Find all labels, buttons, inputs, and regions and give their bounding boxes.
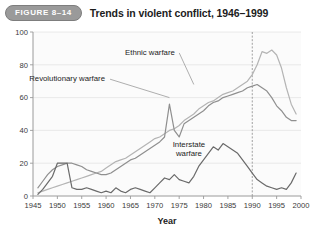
y-axis-tick-labels: 020406080100 <box>15 28 28 201</box>
figure-number-badge: FIGURE 8–14 <box>5 5 82 21</box>
y-tick-label: 0 <box>24 192 28 201</box>
series-annotation: Revolutionary warfare <box>29 74 105 83</box>
x-tick-label: 1980 <box>195 201 212 210</box>
x-tick-label: 2000 <box>293 201 310 210</box>
x-tick-label: 1975 <box>171 201 188 210</box>
x-tick-label: 1965 <box>122 201 139 210</box>
figure-container: FIGURE 8–14 Trends in violent conflict, … <box>0 0 320 229</box>
y-tick-label: 60 <box>20 93 28 102</box>
x-tick-label: 1995 <box>268 201 285 210</box>
y-tick-label: 100 <box>15 28 28 37</box>
y-tick-label: 80 <box>20 61 28 70</box>
x-tick-label: 1990 <box>244 201 261 210</box>
x-tick-label: 1945 <box>25 201 42 210</box>
line-chart: 020406080100 194519501955196019651970197… <box>0 26 320 229</box>
x-tick-label: 1960 <box>98 201 115 210</box>
y-tick-label: 20 <box>20 159 28 168</box>
x-tick-label: 1985 <box>219 201 236 210</box>
series-annotation: Ethnic warfare <box>125 48 175 57</box>
x-tick-label: 1970 <box>146 201 163 210</box>
figure-title: Trends in violent conflict, 1946–1999 <box>90 7 268 19</box>
series-annotation: warfare <box>175 149 202 158</box>
y-tick-label: 40 <box>20 126 28 135</box>
x-tick-label: 1950 <box>49 201 66 210</box>
x-axis-title: Year <box>157 216 177 226</box>
x-axis-tick-labels: 1945195019551960196519701975198019851990… <box>25 201 310 210</box>
x-tick-label: 1955 <box>73 201 90 210</box>
chart-area: 020406080100 194519501955196019651970197… <box>0 26 320 229</box>
figure-header: FIGURE 8–14 Trends in violent conflict, … <box>0 0 320 27</box>
series-annotation: Interstate <box>173 140 206 149</box>
